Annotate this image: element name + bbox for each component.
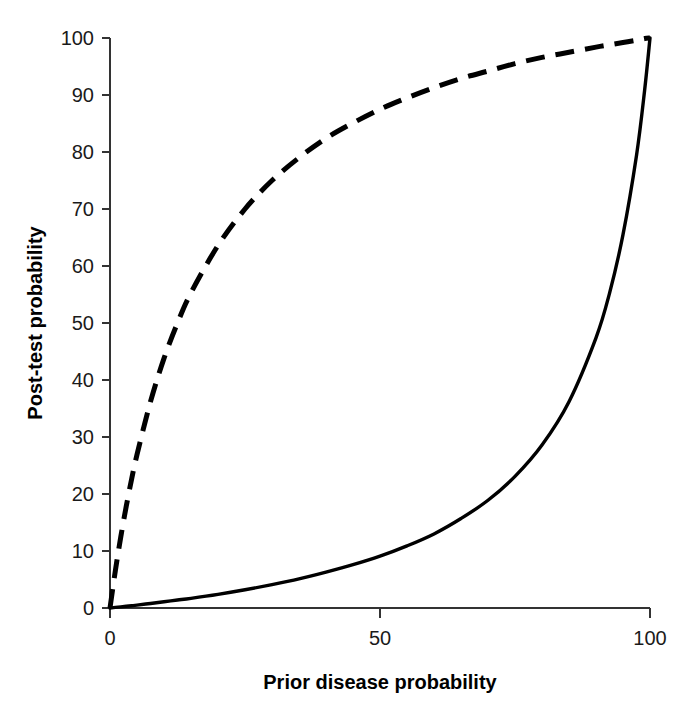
x-axis-title: Prior disease probability — [263, 671, 497, 693]
y-tick-label-100: 100 — [61, 27, 94, 49]
y-tick-label-70: 70 — [72, 198, 94, 220]
y-tick-label-10: 10 — [72, 540, 94, 562]
y-tick-label-80: 80 — [72, 141, 94, 163]
y-tick-label-0: 0 — [83, 597, 94, 619]
y-tick-label-40: 40 — [72, 369, 94, 391]
y-tick-label-50: 50 — [72, 312, 94, 334]
x-tick-label-100: 100 — [633, 627, 666, 649]
series-negative-test-line — [110, 38, 650, 608]
x-tick-label-50: 50 — [369, 627, 391, 649]
y-tick-label-60: 60 — [72, 255, 94, 277]
y-tick-label-20: 20 — [72, 483, 94, 505]
axis-spines — [103, 38, 650, 617]
y-axis-tick-labels: 0 10 20 30 40 50 60 70 80 90 100 — [61, 27, 94, 619]
x-axis-tick-labels: 0 50 100 — [104, 627, 666, 649]
y-tick-label-90: 90 — [72, 84, 94, 106]
y-tick-label-30: 30 — [72, 426, 94, 448]
y-axis-ticks — [102, 38, 110, 608]
x-tick-label-0: 0 — [104, 627, 115, 649]
post-test-probability-chart: 0 10 20 30 40 50 60 70 80 90 100 0 50 10… — [0, 0, 684, 710]
y-axis-title: Post-test probability — [24, 225, 46, 419]
chart-figure: 0 10 20 30 40 50 60 70 80 90 100 0 50 10… — [0, 0, 684, 710]
series-positive-test-line — [110, 38, 650, 608]
x-axis-ticks — [110, 608, 650, 618]
